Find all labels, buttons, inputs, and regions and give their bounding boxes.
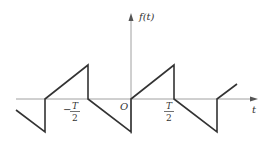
y-axis-label: f(t) — [138, 11, 155, 22]
waveform-diagram: f(t) t O − T 2 T 2 — [0, 0, 274, 141]
svg-text:T: T — [72, 101, 79, 111]
tick-label-neg-half-period: − T 2 — [63, 101, 80, 123]
x-axis-label: t — [252, 104, 257, 115]
svg-text:−: − — [63, 104, 71, 115]
tick-label-half-period: T 2 — [164, 101, 174, 123]
origin-label: O — [120, 101, 128, 112]
y-axis-arrow-icon — [129, 13, 134, 21]
x-axis-arrow-icon — [250, 97, 258, 102]
svg-text:T: T — [166, 101, 173, 111]
svg-text:2: 2 — [166, 113, 172, 123]
svg-text:2: 2 — [72, 113, 78, 123]
